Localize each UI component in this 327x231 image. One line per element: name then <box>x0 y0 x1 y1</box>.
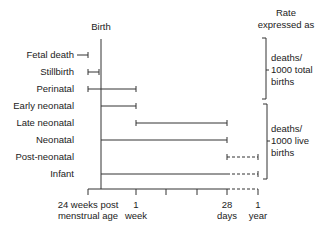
row-label-late-neonatal: Late neonatal <box>0 117 74 128</box>
tick-label-1-year-line2: year <box>243 210 273 221</box>
bar-early-neonatal <box>101 103 136 109</box>
bracket1-line3: births <box>271 76 294 87</box>
x-axis <box>88 189 258 195</box>
tick-label-24-weeks-line2: menstrual age <box>48 210 128 221</box>
bar-late-neonatal <box>136 120 227 126</box>
bar-perinatal <box>88 86 136 92</box>
row-label-early-neonatal: Early neonatal <box>0 100 74 111</box>
bracket2-line2: 1000 live <box>271 135 309 146</box>
bar-stillbirth <box>88 69 99 75</box>
rate-label-line1: Rate <box>256 7 316 18</box>
bar-post-neonatal <box>227 154 258 160</box>
bracket2-line1: deaths/ <box>271 123 302 134</box>
row-label-infant: Infant <box>0 168 74 179</box>
bar-infant <box>101 171 258 177</box>
row-label-fetal-death: Fetal death <box>0 49 74 60</box>
timeline-diagram <box>0 0 327 231</box>
bar-fetal-death <box>77 52 88 58</box>
row-label-stillbirth: Stillbirth <box>0 66 74 77</box>
bracket-total-births <box>262 38 269 99</box>
bar-neonatal <box>101 137 227 143</box>
row-label-neonatal: Neonatal <box>0 134 74 145</box>
tick-label-1-week-line2: week <box>121 210 151 221</box>
row-label-perinatal: Perinatal <box>0 83 74 94</box>
tick-label-1-year-line1: 1 <box>243 199 273 210</box>
bracket1-line1: deaths/ <box>271 52 302 63</box>
bracket2-line3: births <box>271 147 294 158</box>
tick-label-1-week-line1: 1 <box>121 199 151 210</box>
tick-label-24-weeks-line1: 24 weeks post <box>48 199 128 210</box>
tick-label-28-days-line2: days <box>212 210 242 221</box>
bracket1-line2: 1000 total <box>271 64 313 75</box>
tick-label-28-days-line1: 28 <box>212 199 242 210</box>
rate-label-line2: expressed as <box>250 19 322 30</box>
row-label-post-neonatal: Post-neonatal <box>0 151 74 162</box>
bracket-live-births <box>263 104 270 179</box>
birth-label: Birth <box>86 21 116 32</box>
